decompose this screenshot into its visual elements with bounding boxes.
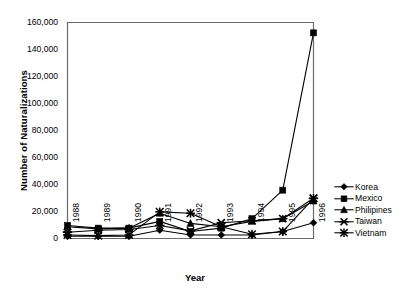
triangle-marker-icon (333, 204, 355, 216)
legend-label: Taiwan (355, 216, 382, 227)
legend-label: Philipines (355, 205, 392, 216)
x-tick-label: 1994 (256, 203, 266, 243)
legend-item-mexico[interactable]: Mexico (333, 193, 411, 205)
chart-legend: Korea Mexico Philipines Taiwan Vietnam (333, 181, 411, 239)
x-tick-label: 1995 (287, 203, 297, 243)
x-axis-title: Year (0, 272, 390, 283)
x-tick-label: 1988 (71, 203, 81, 243)
legend-label: Mexico (355, 193, 382, 204)
asterisk-marker-icon (333, 227, 355, 239)
legend-item-taiwan[interactable]: Taiwan (333, 216, 411, 228)
legend-label: Vietnam (355, 228, 386, 239)
diamond-marker-icon (333, 181, 355, 193)
x-axis-tick-labels: 1988 1989 1990 1991 1992 1993 1994 1995 … (0, 0, 413, 294)
x-tick-label: 1991 (163, 203, 173, 243)
x-tick-label: 1996 (317, 203, 327, 243)
x-tick-label: 1989 (102, 203, 112, 243)
x-tick-label: 1993 (225, 203, 235, 243)
x-tick-label: 1992 (194, 203, 204, 243)
x-tick-label: 1990 (133, 203, 143, 243)
legend-item-philipines[interactable]: Philipines (333, 204, 411, 216)
legend-item-vietnam[interactable]: Vietnam (333, 227, 411, 239)
chart-figure: Number of Naturalizations 160,000 140,00… (0, 0, 413, 294)
cross-bar-marker-icon (333, 216, 355, 228)
legend-item-korea[interactable]: Korea (333, 181, 411, 193)
legend-label: Korea (355, 182, 378, 193)
square-marker-icon (333, 193, 355, 205)
